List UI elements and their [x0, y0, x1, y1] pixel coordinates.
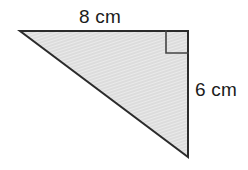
top-side-length-label: 8 cm [79, 7, 121, 26]
right-side-length-label: 6 cm [195, 80, 237, 99]
figure-canvas: 8 cm 6 cm [0, 0, 248, 170]
